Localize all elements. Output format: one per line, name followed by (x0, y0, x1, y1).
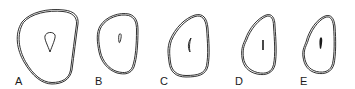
section-b (97, 14, 138, 74)
section-d (242, 15, 277, 75)
lumen-e (320, 38, 321, 48)
panel-label-b: B (95, 76, 102, 87)
section-c (168, 15, 209, 77)
panel-label-d: D (235, 76, 243, 87)
panel-label-c: C (160, 76, 168, 87)
lumen-c (188, 38, 191, 52)
panel-label-a: A (15, 76, 22, 87)
lumen-b (119, 34, 122, 43)
section-a (17, 10, 78, 85)
section-e (303, 15, 336, 73)
panel-label-e: E (300, 76, 307, 87)
lumen-a (45, 32, 55, 52)
